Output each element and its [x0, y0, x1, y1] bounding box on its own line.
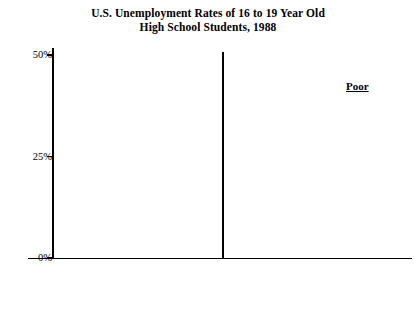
y-tick-label-50: 50%	[6, 50, 52, 61]
y-axis-line	[52, 48, 54, 259]
y-tick-label-25: 25%	[6, 152, 52, 163]
plot-area: 0% 25% 50% 17 All 13 Mid– Upper Income	[0, 0, 416, 314]
poor-annotation: Poor	[346, 80, 369, 92]
y-tick-label-0: 0%	[6, 253, 52, 264]
group-divider	[222, 52, 224, 258]
chart-figure: U.S. Unemployment Rates of 16 to 19 Year…	[0, 0, 416, 314]
x-axis-line	[28, 258, 412, 260]
